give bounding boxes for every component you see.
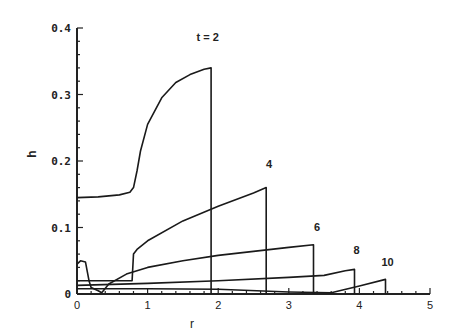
series-line [77,188,266,294]
annotation-layer: t = 246810 [196,31,393,268]
x-tick-label: 2 [215,299,221,311]
x-tick-label: 3 [286,299,292,311]
y-tick-label: 0.4 [51,22,71,35]
y-axis-label: h [25,150,39,157]
curve-time-label: 10 [382,256,394,268]
x-tick-label: 1 [145,299,151,311]
series-line [77,245,314,294]
x-axis-label: r [190,317,194,331]
x-tick-label: 0 [74,299,80,311]
curve-time-label: t = 2 [196,31,218,43]
x-tick-label: 4 [356,299,362,311]
series-layer [77,68,386,294]
y-tick-label: 0.2 [51,155,71,168]
curve-time-label: 6 [314,221,320,233]
chart-canvas: 00.10.20.30.4012345rh t = 246810 [0,0,457,336]
curve-time-label: 8 [354,244,360,256]
curve-time-label: 4 [266,158,273,170]
series-line [77,279,386,294]
x-tick-label: 5 [427,299,433,311]
y-tick-label: 0.3 [51,89,71,102]
y-tick-label: 0 [64,288,71,301]
y-tick-label: 0.1 [51,222,71,235]
